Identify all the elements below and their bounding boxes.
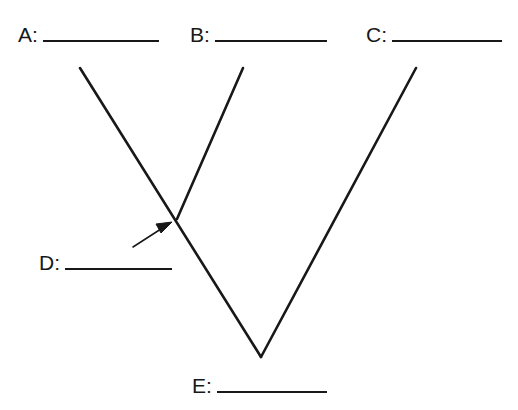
answer-blank-e[interactable] <box>217 391 327 393</box>
answer-blank-c[interactable] <box>392 40 502 42</box>
answer-blank-b[interactable] <box>215 40 327 42</box>
label-slot-a: A: <box>18 24 159 45</box>
answer-blank-a[interactable] <box>43 40 159 42</box>
branch-c-line <box>261 68 416 357</box>
branch-a-line <box>80 68 261 357</box>
label-slot-d: D: <box>39 252 172 273</box>
label-slot-c: C: <box>366 24 502 45</box>
label-b-text: B: <box>190 24 210 45</box>
cladogram-diagram: A: B: C: D: E: <box>0 0 518 410</box>
label-e-text: E: <box>192 375 212 396</box>
label-d-text: D: <box>39 252 60 273</box>
tree-lines-svg <box>0 0 518 410</box>
arrow-to-internal-node-icon <box>133 222 172 247</box>
label-slot-b: B: <box>190 24 327 45</box>
branch-b-line <box>177 68 243 219</box>
answer-blank-d[interactable] <box>65 268 172 270</box>
label-slot-e: E: <box>192 375 327 396</box>
label-a-text: A: <box>18 24 38 45</box>
label-c-text: C: <box>366 24 387 45</box>
